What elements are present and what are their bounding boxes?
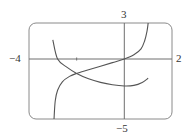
x-min-label: −4 — [9, 53, 21, 64]
y-max-label: 3 — [121, 9, 127, 20]
chart — [0, 0, 191, 140]
viewing-window-frame — [29, 23, 172, 119]
increasing-curve — [54, 23, 148, 119]
y-min-label: −5 — [116, 123, 128, 134]
x-max-label: 2 — [176, 53, 182, 64]
decreasing-curve — [53, 40, 148, 86]
curves — [53, 23, 148, 119]
